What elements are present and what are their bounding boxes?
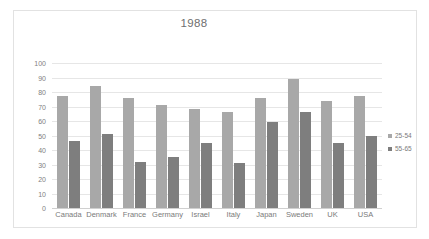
x-axis-tick-denmark: Denmark xyxy=(85,210,118,219)
bar-group-italy xyxy=(217,63,250,208)
y-axis-tick-90: 90 xyxy=(38,74,46,81)
bar-germany-55-65 xyxy=(168,157,179,208)
bar-group-germany xyxy=(151,63,184,208)
bar-group-israel xyxy=(184,63,217,208)
bar-italy-25-54 xyxy=(222,112,233,208)
y-axis-tick-30: 30 xyxy=(38,161,46,168)
bar-canada-55-65 xyxy=(69,141,80,208)
bar-group-sweden xyxy=(283,63,316,208)
legend-swatch-icon-25-54 xyxy=(388,134,392,138)
bar-group-usa xyxy=(349,63,382,208)
bar-israel-25-54 xyxy=(189,109,200,208)
bar-sweden-25-54 xyxy=(288,79,299,208)
bar-uk-55-65 xyxy=(333,143,344,208)
bar-group-france xyxy=(118,63,151,208)
bar-germany-25-54 xyxy=(156,105,167,208)
y-axis-tick-10: 10 xyxy=(38,190,46,197)
x-axis-tick-israel: Israel xyxy=(184,210,217,219)
y-axis-tick-50: 50 xyxy=(38,132,46,139)
x-axis-tick-germany: Germany xyxy=(151,210,184,219)
bar-france-25-54 xyxy=(123,98,134,208)
legend-label-25-54: 25-54 xyxy=(395,132,412,139)
x-axis-tick-sweden: Sweden xyxy=(283,210,316,219)
legend-swatch-icon-55-65 xyxy=(388,147,392,151)
plot-area xyxy=(52,63,382,208)
y-axis-tick-0: 0 xyxy=(42,205,46,212)
bar-group-japan xyxy=(250,63,283,208)
legend-label-55-65: 55-65 xyxy=(395,145,412,152)
chart-title: 1988 xyxy=(14,17,374,29)
bar-canada-25-54 xyxy=(57,96,68,208)
y-axis-tick-40: 40 xyxy=(38,147,46,154)
bar-group-denmark xyxy=(85,63,118,208)
bar-france-55-65 xyxy=(135,162,146,208)
bar-japan-25-54 xyxy=(255,98,266,208)
x-axis-tick-japan: Japan xyxy=(250,210,283,219)
bar-denmark-25-54 xyxy=(90,86,101,208)
bar-group-canada xyxy=(52,63,85,208)
bar-usa-55-65 xyxy=(366,136,377,209)
y-axis-tick-100: 100 xyxy=(34,60,46,67)
bar-italy-55-65 xyxy=(234,163,245,208)
y-axis-tick-70: 70 xyxy=(38,103,46,110)
bar-sweden-55-65 xyxy=(300,112,311,208)
y-axis-tick-20: 20 xyxy=(38,176,46,183)
bar-israel-55-65 xyxy=(201,143,212,208)
bar-usa-25-54 xyxy=(354,96,365,208)
x-axis-tick-france: France xyxy=(118,210,151,219)
x-axis: CanadaDenmarkFranceGermanyIsraelItalyJap… xyxy=(52,210,382,226)
y-axis: 0102030405060708090100 xyxy=(14,63,50,208)
bar-denmark-55-65 xyxy=(102,134,113,208)
chart-frame: 1988 0102030405060708090100 CanadaDenmar… xyxy=(13,10,417,228)
legend-item-25-54[interactable]: 25-54 xyxy=(388,129,428,142)
bar-group-uk xyxy=(316,63,349,208)
gridline-0 xyxy=(52,208,382,209)
x-axis-tick-usa: USA xyxy=(349,210,382,219)
chart-legend: 25-5455-65 xyxy=(388,129,428,155)
y-axis-tick-60: 60 xyxy=(38,118,46,125)
bar-uk-25-54 xyxy=(321,101,332,208)
x-axis-tick-italy: Italy xyxy=(217,210,250,219)
bar-japan-55-65 xyxy=(267,122,278,208)
y-axis-tick-80: 80 xyxy=(38,89,46,96)
x-axis-tick-canada: Canada xyxy=(52,210,85,219)
x-axis-tick-uk: UK xyxy=(316,210,349,219)
legend-item-55-65[interactable]: 55-65 xyxy=(388,142,428,155)
